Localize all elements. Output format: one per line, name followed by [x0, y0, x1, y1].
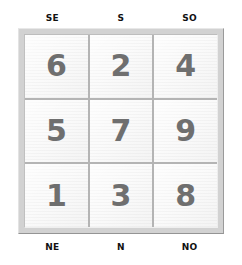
cell-value: 4 [175, 51, 196, 81]
bottom-direction-labels: NE N NO [18, 240, 224, 254]
grid-cell-r2c1: 3 [90, 164, 153, 227]
grid-frame: 6 2 4 5 7 9 1 [18, 28, 224, 234]
grid-cell-r2c0: 1 [25, 164, 88, 227]
grid-cell-r0c2: 4 [154, 35, 217, 98]
top-direction-labels: SE S SO [18, 11, 224, 25]
direction-label-ne: NE [18, 240, 87, 254]
grid-cell-r1c0: 5 [25, 100, 88, 163]
grid-cell-r2c2: 8 [154, 164, 217, 227]
direction-label-so: SO [155, 11, 224, 25]
cell-value: 7 [111, 116, 132, 146]
grid-frame-inner: 6 2 4 5 7 9 1 [24, 34, 218, 228]
grid-cell-r0c1: 2 [90, 35, 153, 98]
magic-square-figure: SE S SO 6 2 4 5 7 [0, 0, 242, 265]
direction-label-se: SE [18, 11, 87, 25]
cell-value: 9 [175, 116, 196, 146]
direction-label-no: NO [155, 240, 224, 254]
grid-cell-r1c2: 9 [154, 100, 217, 163]
cell-value: 6 [46, 51, 67, 81]
cell-value: 8 [175, 181, 196, 211]
number-grid: 6 2 4 5 7 9 1 [25, 35, 217, 227]
cell-value: 5 [46, 116, 67, 146]
cell-value: 1 [46, 181, 67, 211]
grid-cell-r0c0: 6 [25, 35, 88, 98]
grid-cell-r1c1: 7 [90, 100, 153, 163]
direction-label-s: S [87, 11, 156, 25]
direction-label-n: N [87, 240, 156, 254]
cell-value: 2 [111, 51, 132, 81]
cell-value: 3 [111, 181, 132, 211]
